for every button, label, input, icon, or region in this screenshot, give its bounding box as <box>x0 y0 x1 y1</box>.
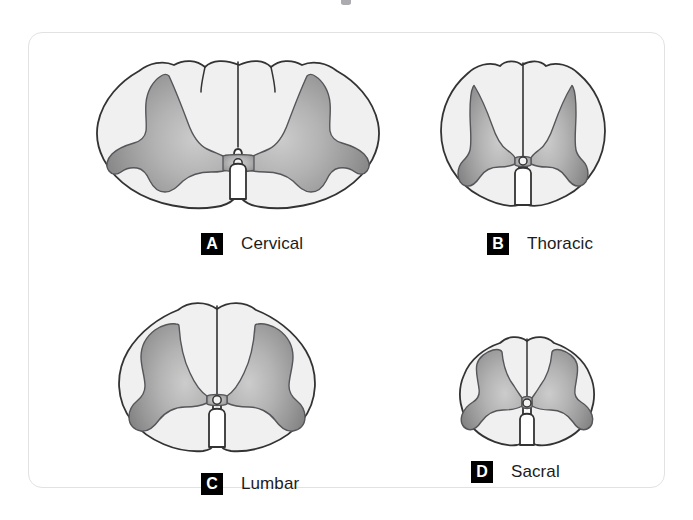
thoracic-cross-section <box>427 55 617 221</box>
lumbar-cross-section <box>97 297 337 465</box>
thoracic-anterior-median-fissure <box>515 168 531 205</box>
sacral-cross-section <box>447 333 607 457</box>
thoracic-central-canal <box>519 157 527 165</box>
panel-badge-c: C <box>201 473 223 495</box>
panel-badge-d: D <box>471 461 493 483</box>
caption-cervical: A Cervical <box>201 233 303 255</box>
panel-label-sacral: Sacral <box>511 462 560 482</box>
caption-lumbar: C Lumbar <box>201 473 299 495</box>
figure-frame: A Cervical B Thoracic <box>28 32 665 488</box>
sacral-central-canal <box>523 399 531 407</box>
panel-badge-b: B <box>487 233 509 255</box>
panel-label-thoracic: Thoracic <box>527 234 593 254</box>
cervical-anterior-median-fissure <box>230 164 246 199</box>
panel-label-lumbar: Lumbar <box>241 474 299 494</box>
caption-thoracic: B Thoracic <box>487 233 593 255</box>
sacral-anterior-median-fissure <box>520 414 534 445</box>
lumbar-anterior-median-fissure <box>209 409 225 447</box>
scan-artifact <box>341 0 351 5</box>
panel-badge-a: A <box>201 233 223 255</box>
cervical-cross-section <box>89 51 389 221</box>
caption-sacral: D Sacral <box>471 461 560 483</box>
panel-label-cervical: Cervical <box>241 234 303 254</box>
lumbar-central-canal <box>213 396 221 404</box>
